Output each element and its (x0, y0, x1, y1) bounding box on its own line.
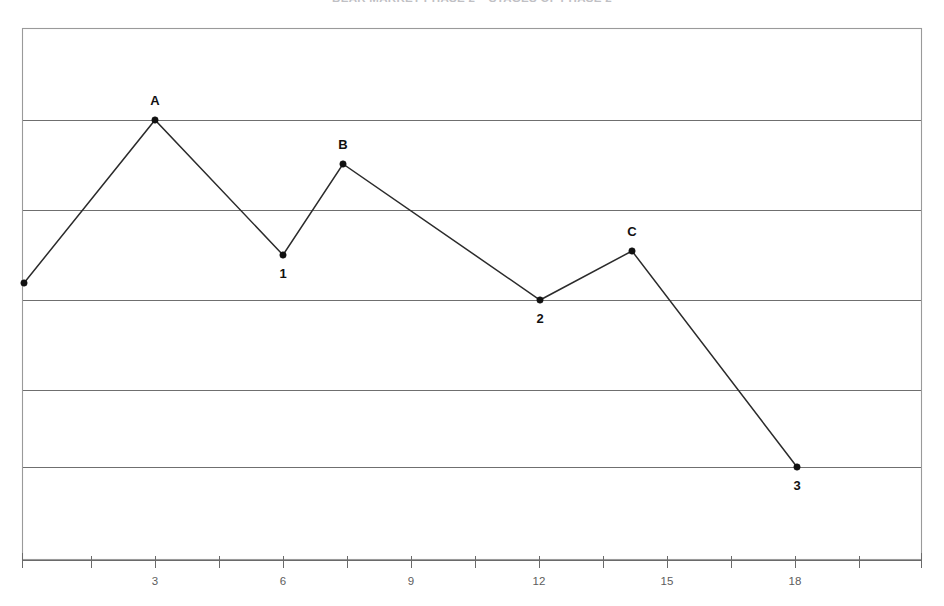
x-tick-label-15: 15 (661, 575, 674, 587)
plot-canvas: A 1 B 2 C 3 3 6 9 (0, 0, 944, 606)
x-tick-label-3: 3 (152, 575, 158, 587)
line-chart-figure: A 1 B 2 C 3 3 6 9 (0, 0, 944, 606)
data-point-a (152, 117, 158, 123)
plot-frame (23, 29, 922, 560)
x-tick-label-18: 18 (789, 575, 802, 587)
data-point (21, 280, 27, 286)
data-point-1 (280, 252, 286, 258)
point-label-c: C (627, 224, 637, 239)
point-label-3: 3 (793, 478, 800, 493)
point-label-1: 1 (279, 266, 286, 281)
data-point-3 (794, 464, 800, 470)
point-label-a: A (150, 93, 160, 108)
point-label-2: 2 (536, 311, 543, 326)
data-point-c (629, 248, 635, 254)
x-tick-label-9: 9 (408, 575, 414, 587)
point-label-b: B (338, 137, 347, 152)
x-tick-label-12: 12 (533, 575, 546, 587)
data-point-b (340, 161, 346, 167)
data-point-2 (537, 297, 543, 303)
x-tick-label-6: 6 (280, 575, 286, 587)
